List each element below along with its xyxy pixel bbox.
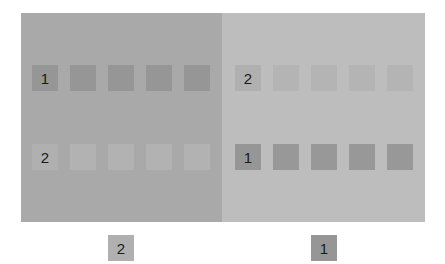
right-row-1-square (349, 65, 375, 91)
left-row-2-square (184, 144, 210, 170)
left-row-1-square (70, 65, 96, 91)
right-row-1: 2 (222, 65, 425, 91)
left-row-2-square (70, 144, 96, 170)
left-row-2-square (146, 144, 172, 170)
left-row-1-square (184, 65, 210, 91)
bottom-right-swatch: 1 (311, 235, 337, 261)
left-row-1: 1 (21, 65, 222, 91)
left-row-2: 2 (21, 144, 222, 170)
right-row-2: 1 (222, 144, 425, 170)
bottom-left-swatch: 2 (108, 235, 134, 261)
right-row-2-square (387, 144, 413, 170)
right-row-1-label-square: 2 (235, 65, 261, 91)
left-row-1-square (108, 65, 134, 91)
right-row-2-square (273, 144, 299, 170)
right-panel: 2 1 (222, 13, 425, 222)
left-panel: 1 2 (21, 13, 222, 222)
left-row-1-square (146, 65, 172, 91)
right-row-2-square (349, 144, 375, 170)
left-row-2-square (108, 144, 134, 170)
right-row-1-square (387, 65, 413, 91)
right-row-1-square (273, 65, 299, 91)
right-row-1-square (311, 65, 337, 91)
left-row-2-label-square: 2 (32, 144, 58, 170)
right-row-2-square (311, 144, 337, 170)
right-row-2-label-square: 1 (235, 144, 261, 170)
left-row-1-label-square: 1 (32, 65, 58, 91)
